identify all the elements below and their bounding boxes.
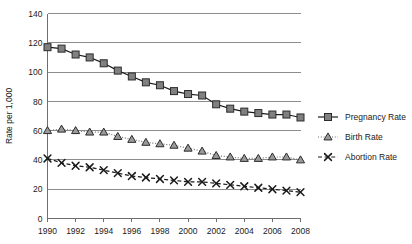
y-tick-label-40: 40: [33, 155, 43, 165]
x-tick-label-1990: 1990: [38, 226, 57, 236]
data-point-pregnancy-rate-1997: [142, 79, 149, 86]
data-point-pregnancy-rate-1995: [114, 67, 121, 74]
rate-per-1000-line-chart: 020406080100120140 199019921994199619982…: [0, 0, 412, 244]
data-point-pregnancy-rate-2001: [199, 92, 206, 99]
legend-item-pregnancy-rate[interactable]: Pregnancy Rate: [318, 112, 406, 122]
data-point-pregnancy-rate-1998: [156, 82, 163, 89]
y-tick-label-80: 80: [33, 97, 43, 107]
data-point-pregnancy-rate-1990: [44, 44, 51, 51]
x-tick-label-1994: 1994: [94, 226, 113, 236]
data-point-pregnancy-rate-1991: [58, 45, 65, 52]
x-tick-label-2006: 2006: [263, 226, 282, 236]
data-point-pregnancy-rate-1996: [128, 73, 135, 80]
x-tick-label-1992: 1992: [66, 226, 85, 236]
data-point-pregnancy-rate-2005: [255, 110, 262, 117]
data-point-pregnancy-rate-1994: [100, 60, 107, 67]
data-point-pregnancy-rate-2002: [213, 101, 220, 108]
legend-label-pregnancy-rate: Pregnancy Rate: [345, 112, 406, 122]
data-point-pregnancy-rate-2000: [185, 91, 192, 98]
data-point-pregnancy-rate-2004: [241, 108, 248, 115]
y-tick-label-60: 60: [33, 126, 43, 136]
data-point-pregnancy-rate-1992: [72, 51, 79, 58]
data-point-pregnancy-rate-2006: [269, 111, 276, 118]
data-point-pregnancy-rate-1999: [171, 88, 178, 95]
y-tick-label-20: 20: [33, 184, 43, 194]
x-tick-label-2002: 2002: [207, 226, 226, 236]
x-tick-label-1996: 1996: [122, 226, 141, 236]
x-tick-label-2004: 2004: [235, 226, 254, 236]
legend-label-birth-rate: Birth Rate: [345, 132, 383, 142]
data-point-pregnancy-rate-2003: [227, 105, 234, 112]
legend-label-abortion-rate: Abortion Rate: [345, 152, 397, 162]
y-tick-label-0: 0: [38, 214, 43, 224]
legend-marker-pregnancy-rate: [325, 114, 332, 121]
data-point-pregnancy-rate-1993: [86, 54, 93, 61]
data-point-pregnancy-rate-2007: [283, 111, 290, 118]
y-axis-title: Rate per 1,000: [4, 88, 14, 145]
y-tick-label-140: 140: [28, 9, 42, 19]
chart-container: 020406080100120140 199019921994199619982…: [0, 0, 412, 244]
y-tick-label-100: 100: [28, 67, 42, 77]
x-tick-label-2000: 2000: [179, 226, 198, 236]
x-tick-label-1998: 1998: [150, 226, 169, 236]
x-tick-label-2008: 2008: [291, 226, 310, 236]
data-point-pregnancy-rate-2008: [297, 114, 304, 121]
y-tick-label-120: 120: [28, 38, 42, 48]
